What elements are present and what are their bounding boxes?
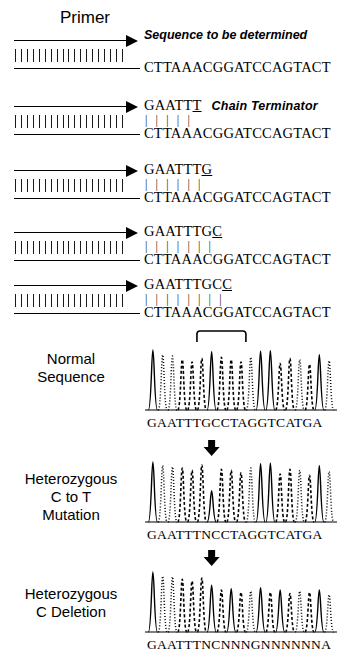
peak [217, 357, 226, 410]
chain-terminator-base: T [193, 97, 202, 113]
chromatogram-trace: GAATTTNCCTAGGTCATGA [145, 442, 339, 543]
hydrogen-bond-ticks: | | | | | | | [145, 241, 214, 251]
peak [236, 362, 245, 410]
peak [148, 572, 157, 632]
extended-strand-line [14, 40, 128, 41]
base-pairing-hatches [15, 49, 123, 62]
template-strand-sequence: CTTAAACGGATCCAGTACT [144, 59, 331, 75]
peak [197, 465, 206, 522]
mutation-pointer-arrow-icon [145, 439, 337, 457]
synthesized-strand-sequence: GAATTTG [144, 162, 212, 177]
peak [305, 364, 314, 410]
extension-arrow-icon [126, 165, 138, 177]
primer-panel: GAATTTG| | | | | |CTTAAACGGATCCAGTACT [0, 160, 339, 212]
peak [305, 592, 314, 632]
peak [266, 592, 275, 632]
trace-peaks [145, 454, 337, 526]
extended-strand-line [14, 106, 128, 107]
chromatogram-label-line: Normal [4, 350, 138, 368]
extended-strand-line [14, 232, 128, 233]
peak [285, 358, 294, 410]
primer-panel: Sequence to be determinedCTTAAACGGATCCAG… [0, 30, 339, 82]
peak [207, 491, 216, 522]
peak [178, 468, 187, 522]
hydrogen-bond-ticks: | | | | | [145, 115, 192, 125]
peak [227, 589, 236, 632]
peak [295, 591, 304, 632]
peak [315, 466, 324, 522]
peak [285, 594, 294, 632]
peak [178, 579, 187, 632]
template-strand-line [14, 68, 140, 69]
peak [325, 472, 334, 522]
template-strand-line [14, 134, 140, 135]
extension-arrow-icon [126, 227, 138, 239]
chromatogram-label-line: C to T [4, 488, 138, 506]
basecall-sequence: GAATTTNCNNNGNNNNNNA [147, 637, 339, 653]
peak [305, 475, 314, 522]
peak [217, 590, 226, 632]
chromatogram-label-line: Mutation [4, 506, 138, 524]
basecall-sequence: GAATTTGCCTAGGTCATGA [147, 415, 339, 431]
peak [246, 468, 255, 522]
template-strand-sequence: CTTAAACGGATCCAGTACT [144, 125, 331, 141]
chromatogram-label-line: Heterozygous [4, 470, 138, 488]
peak [295, 360, 304, 410]
base-pairing-hatches [15, 115, 123, 128]
primer-title: Primer [0, 8, 170, 28]
peak [236, 473, 245, 522]
extension-arrow-icon [126, 280, 138, 292]
peak [256, 351, 265, 410]
template-strand-sequence: CTTAAACGGATCCAGTACT [144, 304, 331, 320]
peak [325, 361, 334, 410]
base-pairing-hatches [15, 294, 123, 307]
peak [325, 595, 334, 632]
peak [188, 581, 197, 632]
peak [266, 463, 275, 522]
chromatogram-label: NormalSequence [4, 350, 138, 386]
trace-peaks [145, 342, 337, 414]
peak [256, 464, 265, 522]
peak [276, 363, 285, 410]
peak [246, 591, 255, 632]
peak [168, 577, 177, 632]
template-strand-line [14, 198, 140, 199]
chromatogram-label-line: Sequence [4, 368, 138, 386]
peak [295, 470, 304, 522]
primer-panel: GAATTTChain Terminator| | | | |CTTAAACGG… [0, 96, 339, 148]
peak [168, 356, 177, 410]
peak [227, 470, 236, 522]
hydrogen-bond-ticks: | | | | | | | | [145, 294, 224, 304]
chromatogram-label-line: Heterozygous [4, 585, 138, 603]
basecall-sequence: GAATTTNCCTAGGTCATGA [147, 527, 339, 543]
peak [227, 360, 236, 410]
peak [276, 474, 285, 522]
synthesized-strand-sequence: GAATTTGC [144, 224, 222, 239]
primer-panel: GAATTTGC| | | | | | |CTTAAACGGATCCAGTACT [0, 222, 339, 274]
chromatogram-trace: GAATTTNCNNNGNNNNNNA [145, 552, 339, 653]
peak [276, 590, 285, 632]
chromatogram-label: HeterozygousC Deletion [4, 585, 138, 621]
chain-terminator-base: C [212, 223, 222, 239]
chain-terminator-base: C [222, 276, 232, 292]
template-strand-line [14, 313, 140, 314]
peak [266, 351, 275, 410]
peak [246, 357, 255, 410]
peak [188, 470, 197, 522]
extended-strand-line [14, 285, 128, 286]
peak [236, 592, 245, 632]
peak [158, 466, 167, 522]
chain-terminator-label: Chain Terminator [212, 99, 318, 114]
peak [148, 350, 157, 410]
peak [207, 585, 216, 632]
extension-arrow-icon [126, 101, 138, 113]
extension-arrow-icon [126, 35, 138, 47]
synthesized-strand-sequence: GAATTTChain Terminator [144, 98, 318, 114]
peak [197, 358, 206, 410]
peak [178, 360, 187, 410]
peak [158, 576, 167, 632]
chain-terminator-base: G [202, 161, 213, 177]
chromatogram-label-line: C Deletion [4, 603, 138, 621]
peak [207, 352, 216, 410]
peak [285, 469, 294, 522]
